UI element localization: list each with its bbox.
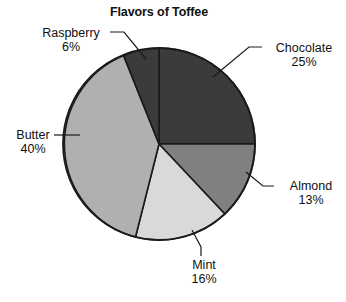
slice-label-mint-value: 16%	[176, 272, 232, 286]
slice-label-butter: Butter 40%	[2, 128, 64, 156]
slice-label-almond: Almond 13%	[277, 179, 345, 207]
slice-label-chocolate-name: Chocolate	[262, 41, 346, 55]
slice-label-butter-value: 40%	[2, 142, 64, 156]
slice-label-mint: Mint 16%	[176, 258, 232, 286]
pie-slice-chocolate[interactable]	[159, 48, 255, 144]
slice-label-raspberry: Raspberry 6%	[28, 26, 114, 54]
slice-label-chocolate: Chocolate 25%	[262, 41, 346, 69]
slice-label-almond-name: Almond	[277, 179, 345, 193]
pie-chart-figure: Flavors of Toffee Raspberry 6% Chocolate…	[0, 0, 346, 302]
slice-label-almond-value: 13%	[277, 193, 345, 207]
slice-label-butter-name: Butter	[2, 128, 64, 142]
slice-label-raspberry-name: Raspberry	[28, 26, 114, 40]
slice-label-raspberry-value: 6%	[28, 40, 114, 54]
slice-label-chocolate-value: 25%	[262, 55, 346, 69]
slice-label-mint-name: Mint	[176, 258, 232, 272]
